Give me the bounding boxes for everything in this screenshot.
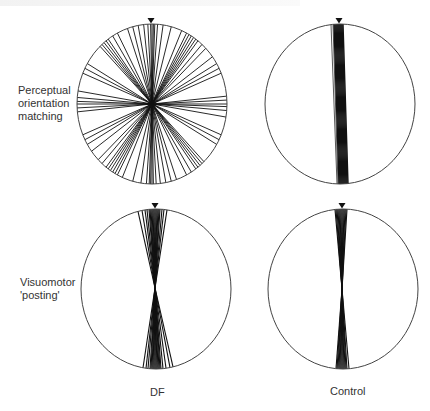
row-label-perceptual: Perceptual orientation matching <box>18 84 71 123</box>
row-label-visuomotor: Visuomotor 'posting' <box>20 276 75 302</box>
row-label-line: Visuomotor <box>20 276 75 289</box>
row-label-line: Perceptual <box>18 84 71 97</box>
col-label-control: Control <box>330 385 365 397</box>
col-label-df: DF <box>150 386 165 398</box>
orientation-figure <box>0 0 430 411</box>
row-label-line: 'posting' <box>20 289 75 302</box>
row-label-line: orientation <box>18 97 71 110</box>
target-marker-icon <box>339 203 346 209</box>
target-marker-icon <box>336 18 343 24</box>
target-marker-icon <box>152 203 159 209</box>
target-marker-icon <box>148 18 155 24</box>
row-label-line: matching <box>18 110 71 123</box>
